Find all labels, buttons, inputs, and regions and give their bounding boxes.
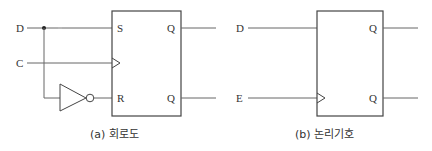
pin-q-bar-label: Q <box>369 92 377 104</box>
inverter-bubble <box>86 94 94 102</box>
pin-q-label: Q <box>167 22 175 34</box>
input-d-label: D <box>16 22 24 34</box>
input-d-label: D <box>236 22 244 34</box>
pin-q-label: Q <box>369 22 377 34</box>
d-latch-diagram: D C S R Q Q (a) 회로도 D E <box>0 0 432 151</box>
input-c-label: C <box>16 57 23 69</box>
circuit-diagram: D C S R Q Q (a) 회로도 <box>16 11 216 141</box>
pin-s-label: S <box>117 22 123 34</box>
caption-circuit: (a) 회로도 <box>90 128 139 141</box>
input-e-label: E <box>236 92 243 104</box>
pin-q-bar-label: Q <box>167 92 175 104</box>
logic-symbol: D E Q Q (b) 논리기호 <box>236 11 418 141</box>
caption-logic-symbol: (b) 논리기호 <box>295 128 354 141</box>
inverter-icon <box>60 84 86 111</box>
pin-r-label: R <box>117 92 125 104</box>
